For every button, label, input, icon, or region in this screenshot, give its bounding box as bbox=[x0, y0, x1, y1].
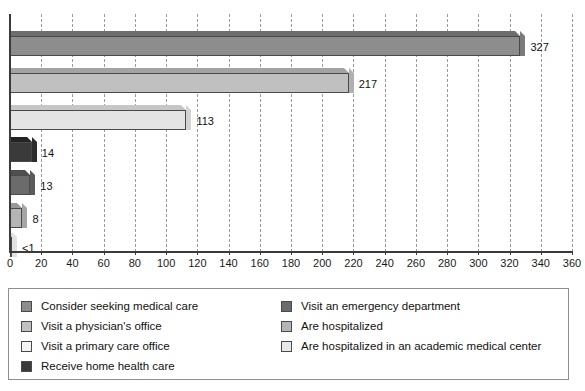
x-tick-80 bbox=[135, 251, 136, 255]
legend-column-right: Visit an emergency departmentAre hospita… bbox=[281, 296, 566, 356]
x-axis-tick-labels: 0204060801001201401601802002202402602803… bbox=[0, 0, 585, 278]
x-tick-360 bbox=[572, 251, 573, 255]
legend-item[interactable]: Visit a primary care office bbox=[21, 336, 281, 356]
legend-swatch-icon bbox=[21, 301, 32, 312]
chart-page: 32721711314138<1 02040608010012014016018… bbox=[0, 0, 585, 391]
x-tick-40 bbox=[72, 251, 73, 255]
x-tick-label-120: 120 bbox=[188, 257, 206, 269]
x-tick-label-360: 360 bbox=[563, 257, 581, 269]
bar-chart: 32721711314138<1 02040608010012014016018… bbox=[0, 0, 585, 278]
x-tick-label-200: 200 bbox=[313, 257, 331, 269]
legend-item[interactable]: Visit an emergency department bbox=[281, 296, 566, 316]
legend-item[interactable]: Are hospitalized bbox=[281, 316, 566, 336]
x-tick-60 bbox=[104, 251, 105, 255]
legend-item-label: Are hospitalized bbox=[301, 320, 383, 333]
legend-item-label: Visit a physician's office bbox=[41, 320, 162, 333]
x-tick-label-320: 320 bbox=[500, 257, 518, 269]
x-tick-label-20: 20 bbox=[35, 257, 47, 269]
legend-item-label: Visit an emergency department bbox=[301, 300, 460, 313]
legend-swatch-icon bbox=[281, 321, 292, 332]
legend-swatch-icon bbox=[21, 321, 32, 332]
x-tick-140 bbox=[229, 251, 230, 255]
x-tick-label-340: 340 bbox=[532, 257, 550, 269]
x-tick-label-100: 100 bbox=[157, 257, 175, 269]
x-tick-200 bbox=[322, 251, 323, 255]
x-tick-label-60: 60 bbox=[98, 257, 110, 269]
x-tick-label-300: 300 bbox=[469, 257, 487, 269]
legend-item-label: Consider seeking medical care bbox=[41, 300, 198, 313]
x-tick-260 bbox=[416, 251, 417, 255]
legend-item[interactable]: Consider seeking medical care bbox=[21, 296, 281, 316]
x-tick-180 bbox=[291, 251, 292, 255]
x-tick-320 bbox=[510, 251, 511, 255]
x-tick-label-140: 140 bbox=[219, 257, 237, 269]
legend-swatch-icon bbox=[281, 301, 292, 312]
legend-item-label: Are hospitalized in an academic medical … bbox=[301, 340, 541, 353]
legend-item[interactable]: Visit a physician's office bbox=[21, 316, 281, 336]
legend-swatch-icon bbox=[21, 341, 32, 352]
x-tick-label-160: 160 bbox=[251, 257, 269, 269]
x-tick-280 bbox=[447, 251, 448, 255]
x-tick-label-180: 180 bbox=[282, 257, 300, 269]
legend-item-label: Visit a primary care office bbox=[41, 340, 170, 353]
x-tick-300 bbox=[478, 251, 479, 255]
x-tick-label-220: 220 bbox=[344, 257, 362, 269]
x-tick-100 bbox=[166, 251, 167, 255]
x-tick-label-280: 280 bbox=[438, 257, 456, 269]
x-tick-340 bbox=[541, 251, 542, 255]
legend-item-label: Receive home health care bbox=[41, 360, 175, 373]
x-tick-label-260: 260 bbox=[407, 257, 425, 269]
x-tick-160 bbox=[260, 251, 261, 255]
x-tick-label-40: 40 bbox=[66, 257, 78, 269]
legend-swatch-icon bbox=[21, 361, 32, 372]
x-tick-label-80: 80 bbox=[129, 257, 141, 269]
legend-column-left: Consider seeking medical careVisit a phy… bbox=[21, 296, 281, 376]
x-tick-0 bbox=[10, 251, 11, 255]
x-tick-20 bbox=[41, 251, 42, 255]
legend-swatch-icon bbox=[281, 341, 292, 352]
legend-item[interactable]: Receive home health care bbox=[21, 356, 281, 376]
x-tick-240 bbox=[385, 251, 386, 255]
x-tick-label-0: 0 bbox=[7, 257, 13, 269]
legend-item[interactable]: Are hospitalized in an academic medical … bbox=[281, 336, 566, 356]
x-tick-label-240: 240 bbox=[375, 257, 393, 269]
x-tick-120 bbox=[197, 251, 198, 255]
x-tick-220 bbox=[353, 251, 354, 255]
chart-legend: Consider seeking medical careVisit a phy… bbox=[8, 288, 569, 380]
